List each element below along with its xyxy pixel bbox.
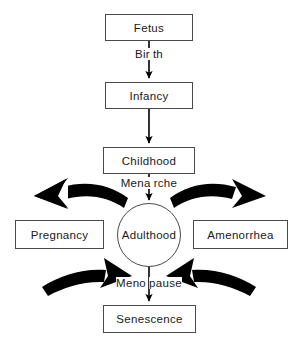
node-childhood[interactable]: Childhood [103,147,195,174]
node-infancy[interactable]: Infancy [105,82,193,109]
edge-label-menopause-right: pause [149,277,182,289]
node-amenorrhea-label: Amenorrhea [207,229,273,241]
node-pregnancy[interactable]: Pregnancy [15,220,104,249]
edge-label-menarche: Menarche [95,177,203,189]
node-senescence[interactable]: Senescence [103,305,196,333]
node-adulthood-label: Adulthood [122,229,177,241]
life-cycle-diagram: Fetus Infancy Childhood Pregnancy Amenor… [0,0,302,346]
node-amenorrhea[interactable]: Amenorrhea [193,220,288,249]
node-senescence-label: Senescence [116,313,182,325]
node-childhood-label: Childhood [122,155,177,167]
edge-label-birth: Birth [105,48,193,60]
edge-label-menopause: Menopause [95,277,203,289]
edge-label-menarche-left: Mena [121,177,151,189]
edge-label-birth-right: th [153,48,163,60]
node-infancy-label: Infancy [129,90,168,102]
edge-label-menarche-right: rche [154,177,178,189]
edge-label-menopause-left: Meno [116,277,146,289]
node-fetus-label: Fetus [134,22,164,34]
edge-label-birth-left: Bir [135,48,150,60]
node-pregnancy-label: Pregnancy [31,229,89,241]
node-fetus[interactable]: Fetus [105,14,193,41]
